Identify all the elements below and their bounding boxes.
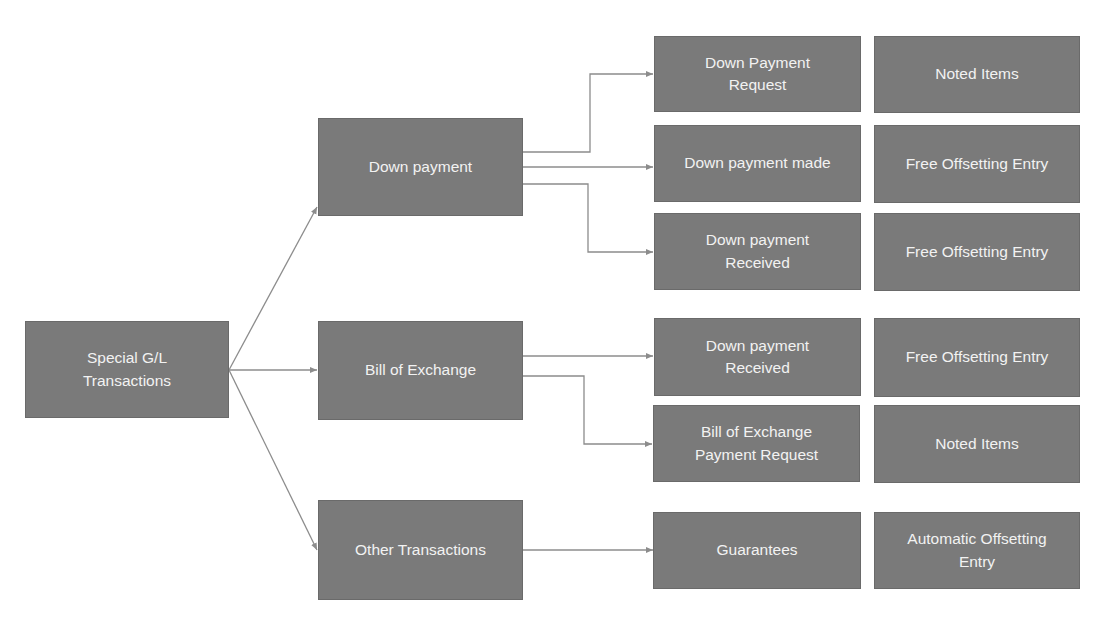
transaction-node-down-payment-received: Down payment Received <box>654 213 861 290</box>
category-label: Other Transactions <box>355 539 486 561</box>
entry-node-free-offsetting-entry: Free Offsetting Entry <box>874 213 1080 291</box>
entry-node-noted-items: Noted Items <box>874 36 1080 113</box>
root-node-label: Special G/L Transactions <box>72 347 182 392</box>
transaction-label: Guarantees <box>717 539 798 561</box>
transaction-label: Down payment Received <box>688 229 828 274</box>
entry-label: Automatic Offsetting Entry <box>892 528 1062 573</box>
transaction-node-down-payment-made: Down payment made <box>654 125 861 202</box>
category-label: Bill of Exchange <box>365 359 476 381</box>
entry-label: Free Offsetting Entry <box>906 346 1049 368</box>
transaction-label: Down Payment Request <box>688 52 828 97</box>
entry-label: Noted Items <box>935 63 1019 85</box>
entry-label: Free Offsetting Entry <box>906 241 1049 263</box>
category-node-down-payment: Down payment <box>318 118 523 216</box>
entry-label: Free Offsetting Entry <box>906 153 1049 175</box>
transaction-node-guarantees: Guarantees <box>653 512 861 589</box>
entry-node-noted-items: Noted Items <box>874 405 1080 483</box>
category-label: Down payment <box>369 156 472 178</box>
transaction-node-down-payment-received-boe: Down payment Received <box>654 318 861 396</box>
transaction-label: Down payment Received <box>688 335 828 380</box>
entry-node-free-offsetting-entry: Free Offsetting Entry <box>874 125 1080 203</box>
transaction-label: Down payment made <box>684 152 830 174</box>
category-node-bill-of-exchange: Bill of Exchange <box>318 321 523 420</box>
transaction-node-bill-of-exchange-payment-request: Bill of Exchange Payment Request <box>653 405 860 482</box>
category-node-other-transactions: Other Transactions <box>318 500 523 600</box>
root-node-special-gl-transactions: Special G/L Transactions <box>25 321 229 418</box>
entry-node-free-offsetting-entry: Free Offsetting Entry <box>874 318 1080 397</box>
transaction-label: Bill of Exchange Payment Request <box>677 421 837 466</box>
transaction-node-down-payment-request: Down Payment Request <box>654 36 861 112</box>
entry-node-automatic-offsetting-entry: Automatic Offsetting Entry <box>874 512 1080 589</box>
entry-label: Noted Items <box>935 433 1019 455</box>
